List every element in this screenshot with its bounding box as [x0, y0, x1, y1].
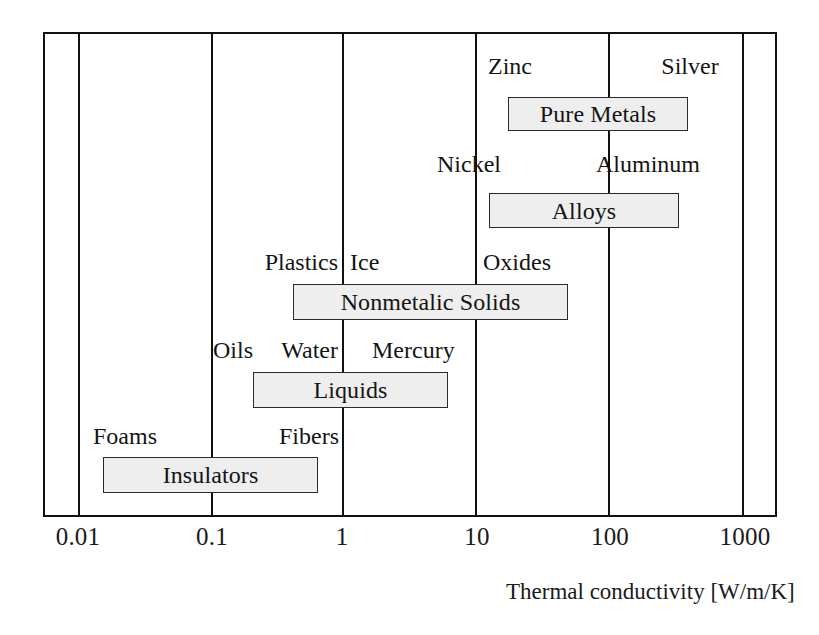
x-tick-label-10: 10 [464, 524, 489, 549]
gridline-1 [342, 32, 344, 517]
x-tick-label-0.01: 0.01 [56, 524, 101, 549]
gridline-0.01 [78, 32, 80, 517]
annotation-zinc: Zinc [488, 54, 532, 78]
band-alloys: Alloys [489, 193, 679, 228]
band-insulators: Insulators [103, 457, 318, 493]
band-label-liquids: Liquids [313, 378, 387, 402]
band-label-alloys: Alloys [552, 199, 617, 223]
annotation-plastics: Plastics [265, 250, 338, 274]
annotation-foams: Foams [93, 424, 157, 448]
x-tick-label-1: 1 [336, 524, 349, 549]
band-label-insulators: Insulators [163, 463, 259, 487]
annotation-oxides: Oxides [483, 250, 551, 274]
band-liquids: Liquids [253, 372, 448, 408]
annotation-fibers: Fibers [279, 424, 339, 448]
annotation-oils: Oils [213, 338, 253, 362]
band-pure-metals: Pure Metals [508, 97, 688, 131]
band-label-nonmetalic-solids: Nonmetalic Solids [341, 290, 521, 314]
thermal-conductivity-chart: 0.01 0.1 1 10 100 1000 Thermal conductiv… [0, 0, 819, 635]
gridline-0.1 [211, 32, 213, 517]
annotation-silver: Silver [661, 54, 718, 78]
x-tick-label-0.1: 0.1 [196, 524, 228, 549]
band-label-pure-metals: Pure Metals [540, 102, 656, 126]
annotation-water: Water [281, 338, 338, 362]
x-tick-label-100: 100 [591, 524, 629, 549]
annotation-aluminum: Aluminum [596, 152, 700, 176]
x-axis-title: Thermal conductivity [W/m/K] [506, 580, 795, 603]
band-nonmetalic-solids: Nonmetalic Solids [293, 284, 568, 320]
annotation-nickel: Nickel [437, 152, 501, 176]
annotation-mercury: Mercury [372, 338, 455, 362]
gridline-10 [475, 32, 477, 517]
x-tick-label-1000: 1000 [720, 524, 771, 549]
annotation-ice: Ice [350, 250, 379, 274]
gridline-1000 [742, 32, 744, 517]
